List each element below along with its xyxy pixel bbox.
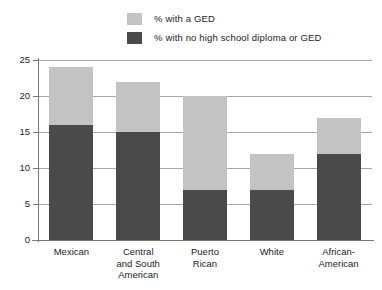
y-tick-15	[33, 132, 39, 133]
x-axis-label-4: African- American	[305, 246, 372, 269]
bar-group-4[interactable]	[317, 118, 361, 240]
legend-item-ged: % with a GED	[127, 13, 215, 25]
legend-item-no-diploma: % with no high school diploma or GED	[127, 32, 322, 44]
bar-segment[interactable]	[49, 67, 93, 125]
y-tick-20	[33, 96, 39, 97]
y-tick-25	[33, 60, 39, 61]
legend-swatch-no-diploma	[127, 32, 142, 44]
chart-plot-area: 0510152025 MexicanCentral and South Amer…	[0, 52, 382, 290]
bar-group-3[interactable]	[250, 154, 294, 240]
bar-segment[interactable]	[116, 132, 160, 240]
chart-legend: % with a GED % with no high school diplo…	[0, 8, 382, 52]
y-tick-0	[33, 240, 39, 241]
bar-segment[interactable]	[317, 118, 361, 154]
y-axis-labels: 0510152025	[0, 52, 30, 248]
bar-segment[interactable]	[116, 82, 160, 132]
y-axis-label-5: 5	[2, 199, 30, 209]
x-axis-label-3: White	[238, 246, 305, 258]
y-axis-label-10: 10	[2, 163, 30, 173]
legend-label-no-diploma: % with no high school diploma or GED	[154, 32, 322, 44]
x-axis-category-labels: MexicanCentral and South AmericanPuerto …	[38, 246, 372, 290]
bar-segment[interactable]	[49, 125, 93, 240]
bar-group-1[interactable]	[116, 82, 160, 240]
bar-segment[interactable]	[250, 190, 294, 240]
y-axis-label-0: 0	[2, 235, 30, 245]
y-axis-label-25: 25	[2, 55, 30, 65]
y-tick-5	[33, 204, 39, 205]
bar-group-0[interactable]	[49, 67, 93, 240]
legend-label-ged: % with a GED	[154, 13, 215, 25]
y-axis-label-20: 20	[2, 91, 30, 101]
legend-swatch-ged	[127, 13, 142, 25]
x-axis-label-0: Mexican	[38, 246, 105, 258]
x-axis-label-2: Puerto Rican	[172, 246, 239, 269]
bar-series-container	[38, 52, 372, 241]
bar-segment[interactable]	[250, 154, 294, 190]
y-tick-10	[33, 168, 39, 169]
x-axis-label-1: Central and South American	[105, 246, 172, 281]
y-axis-label-15: 15	[2, 127, 30, 137]
bar-segment[interactable]	[183, 190, 227, 240]
bar-segment[interactable]	[183, 96, 227, 190]
bar-group-2[interactable]	[183, 96, 227, 240]
bar-segment[interactable]	[317, 154, 361, 240]
